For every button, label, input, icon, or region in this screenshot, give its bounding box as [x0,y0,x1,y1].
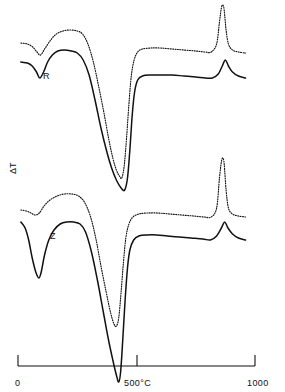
x-axis [18,355,255,366]
curve-label-z: Z [50,231,56,241]
dta-thermogram-figure: ΔT 0 500°C 1000 R Z [0,0,285,392]
y-axis-label: ΔT [8,162,18,174]
chart-plot-area [0,0,285,392]
x-tick-label-0: 0 [15,378,20,388]
x-tick-label-1000: 1000 [247,378,269,388]
curve-r-solid [21,50,246,191]
curve-r-dotted [21,5,246,179]
curve-group [21,5,246,382]
curve-z-solid [21,222,246,382]
curve-label-r: R [43,71,50,81]
x-tick-label-500: 500°C [124,378,151,388]
